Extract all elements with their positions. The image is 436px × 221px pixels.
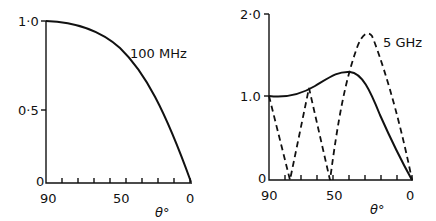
left-x-label-90: 90 bbox=[40, 191, 57, 206]
left-chart: 1·0 0·5 0 90 50 0 θ° 100 MHz bbox=[18, 14, 194, 220]
left-frequency-label: 100 MHz bbox=[130, 46, 187, 61]
right-solid-curve bbox=[269, 72, 412, 180]
figure: 1·0 0·5 0 90 50 0 θ° 100 MHz 2·0 1.0 bbox=[0, 0, 436, 221]
left-x-title: θ° bbox=[155, 205, 169, 220]
left-x-label-50: 50 bbox=[113, 191, 130, 206]
right-x-label-50: 50 bbox=[326, 188, 343, 203]
right-x-label-0: 0 bbox=[406, 188, 414, 203]
left-x-label-0: 0 bbox=[186, 191, 194, 206]
left-y-label-1: 1·0 bbox=[18, 14, 39, 29]
right-y-label-1: 1.0 bbox=[240, 89, 261, 104]
left-y-label-05: 0·5 bbox=[18, 103, 39, 118]
left-x-ticks bbox=[62, 178, 190, 183]
right-dashed-curve bbox=[269, 33, 412, 180]
left-y-label-0: 0 bbox=[36, 174, 44, 189]
right-chart: 2·0 1.0 0 90 50 0 θ° 5 GHz bbox=[240, 7, 422, 217]
right-x-title: θ° bbox=[370, 202, 384, 217]
right-x-ticks bbox=[285, 175, 412, 180]
right-y-label-0: 0 bbox=[258, 171, 266, 186]
right-y-label-2: 2·0 bbox=[240, 7, 261, 22]
right-frequency-label: 5 GHz bbox=[383, 35, 422, 50]
right-x-label-90: 90 bbox=[261, 188, 278, 203]
